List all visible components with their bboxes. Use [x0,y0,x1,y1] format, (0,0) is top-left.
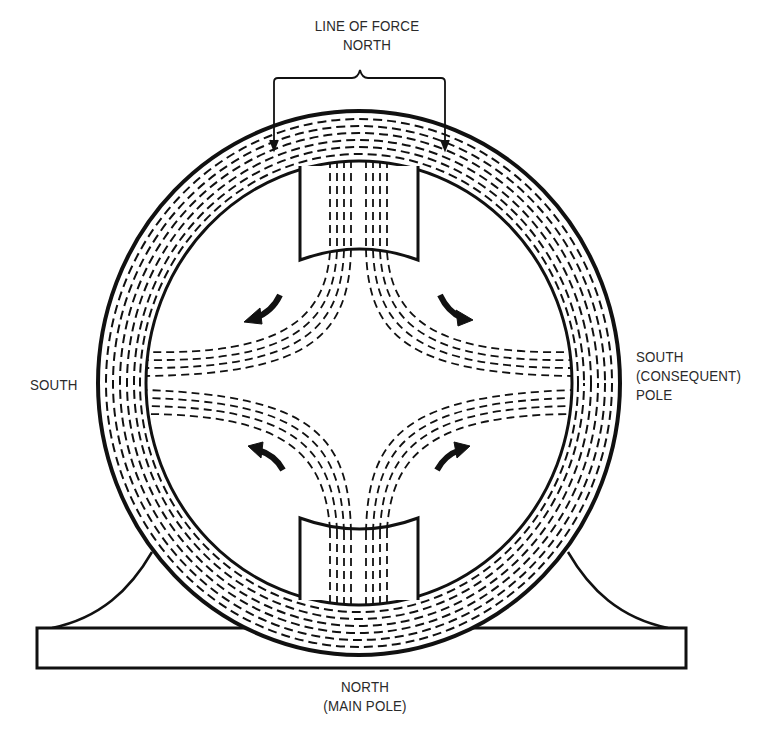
label-right-south: SOUTH [636,347,741,366]
label-pole: POLE [636,385,741,404]
label-line-of-force: LINE OF FORCE NORTH [303,16,432,54]
label-left-south: SOUTH [30,375,78,394]
label-main-pole: NORTH (MAIN POLE) [313,677,416,715]
north-pole-top [300,166,418,260]
label-right-consequent-pole: SOUTH (CONSEQUENT) POLE [636,347,741,404]
label-bottom-north: NORTH [313,677,416,696]
label-line-of-force-text: LINE OF FORCE [303,16,432,35]
label-main-pole-text: (MAIN POLE) [313,696,416,715]
label-consequent: (CONSEQUENT) [636,366,741,385]
north-pole-bottom [300,518,418,600]
label-top-north: NORTH [303,35,432,54]
